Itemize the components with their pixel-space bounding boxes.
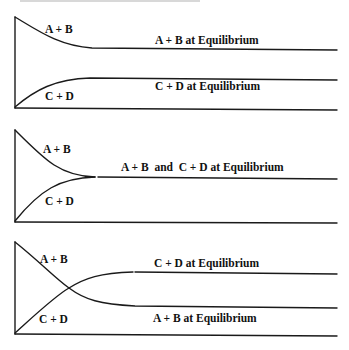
equilibrium-label-bottom: A + B at Equilibrium bbox=[153, 312, 257, 325]
equilibrium-label-top: A + B at Equilibrium bbox=[155, 34, 259, 47]
reactant-label: A + B bbox=[40, 253, 68, 265]
panel-2: A + B C + D A + B and C + D at Equilibri… bbox=[15, 130, 337, 223]
equilibrium-line bbox=[98, 177, 337, 179]
equilibrium-label-top: C + D at Equilibrium bbox=[154, 257, 259, 270]
reactant-curve bbox=[15, 242, 337, 308]
panel-3: A + B C + D C + D at Equilibrium A + B a… bbox=[15, 242, 337, 336]
product-label: C + D bbox=[45, 195, 74, 207]
x-axis bbox=[15, 108, 337, 110]
reactant-label: A + B bbox=[43, 143, 71, 155]
reactant-label: A + B bbox=[45, 23, 73, 35]
equilibrium-diagram: A + B C + D A + B at Equilibrium C + D a… bbox=[0, 0, 349, 350]
x-axis bbox=[15, 222, 337, 223]
product-label: C + D bbox=[45, 90, 74, 102]
equilibrium-label-bottom: C + D at Equilibrium bbox=[155, 80, 260, 93]
product-equilibrium-line bbox=[135, 272, 337, 274]
equilibrium-label-combined: A + B and C + D at Equilibrium bbox=[121, 161, 284, 174]
product-label: C + D bbox=[39, 313, 68, 325]
x-axis bbox=[15, 334, 337, 336]
cutoff-text-line bbox=[20, 0, 200, 2]
product-curve bbox=[15, 272, 133, 333]
panel-1: A + B C + D A + B at Equilibrium C + D a… bbox=[15, 17, 337, 110]
